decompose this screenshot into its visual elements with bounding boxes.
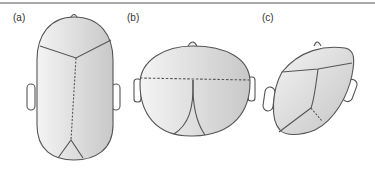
head-c: [262, 42, 358, 135]
head-a: [27, 15, 120, 161]
head-shape-diagram: [0, 0, 375, 170]
head-b: [134, 42, 255, 136]
